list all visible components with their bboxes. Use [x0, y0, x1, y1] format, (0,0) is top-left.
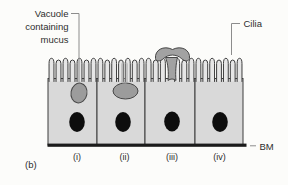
cilium — [132, 60, 137, 82]
cilium — [210, 58, 215, 81]
mucus-smear — [121, 62, 128, 84]
cell-i-nucleus — [69, 112, 85, 132]
cilium — [139, 58, 144, 81]
cilium — [98, 58, 103, 81]
cell-ii-nucleus — [115, 112, 131, 132]
cilium — [105, 60, 110, 82]
vacuole-label-line-2: containing — [25, 21, 68, 32]
mucus-release-stalk — [166, 58, 178, 81]
cell-iii-nucleus — [164, 112, 180, 132]
vacuole-label-line-3: mucus — [41, 34, 69, 45]
cilium — [203, 60, 208, 82]
cilium — [196, 58, 201, 81]
cilium — [153, 60, 158, 82]
cilium — [84, 60, 89, 82]
cell-iv-cilia — [196, 58, 242, 81]
cilium — [182, 60, 187, 82]
cilium — [63, 58, 68, 81]
panel-label: (b) — [25, 159, 37, 170]
vacuole-label-line-1: Vacuole — [35, 8, 69, 19]
cilium — [70, 60, 75, 82]
cilium — [91, 58, 96, 81]
cilium — [146, 58, 151, 81]
epithelium-mucus-secretion-diagram: Vacuole containing mucus Cilia BM (i) (i… — [0, 0, 288, 185]
cell-iv-body — [195, 79, 243, 146]
cilium — [223, 58, 228, 81]
cilia-pointer-line — [232, 24, 241, 56]
cell-iii-label: (iii) — [166, 152, 178, 162]
bm-label: BM — [260, 141, 274, 152]
basement-membrane — [48, 144, 247, 147]
mucus-vacuole-large — [113, 83, 138, 99]
figure-panel: Vacuole containing mucus Cilia BM (i) (i… — [0, 0, 288, 185]
cell-iv-nucleus — [212, 112, 228, 132]
cell-iv-label: (iv) — [213, 152, 226, 162]
cilium — [217, 60, 222, 82]
cell-iii-body — [145, 79, 195, 146]
cilium — [230, 60, 235, 82]
cilium — [112, 58, 117, 81]
cell-i-cilia — [49, 58, 96, 81]
cilia-label: Cilia — [244, 18, 263, 29]
cell-ii-label: (ii) — [120, 152, 130, 162]
cilium — [49, 58, 54, 81]
cilium — [160, 58, 165, 81]
cilium — [56, 60, 61, 82]
cilium — [189, 58, 194, 81]
cilium — [237, 58, 242, 81]
cell-i-label: (i) — [73, 152, 81, 162]
